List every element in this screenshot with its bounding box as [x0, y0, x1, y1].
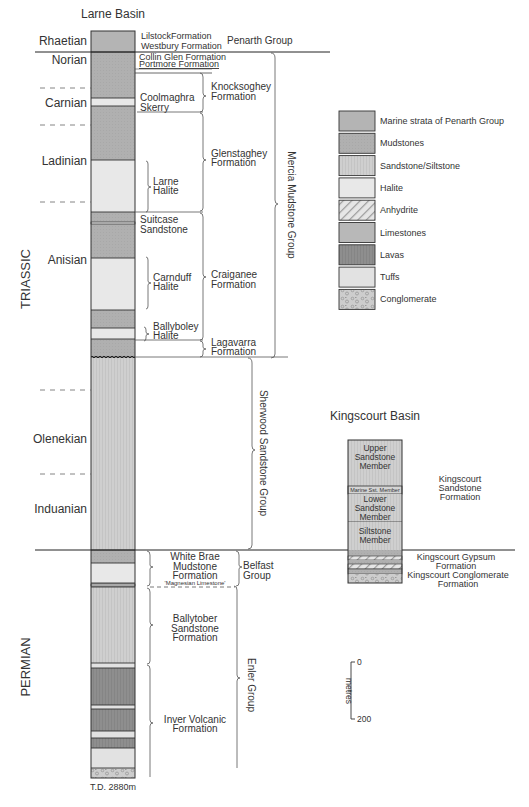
stage-boundaries	[40, 88, 91, 474]
craiganee-brace	[200, 213, 206, 340]
legend-swatch-mudstone	[339, 133, 375, 153]
ballytober-brace	[147, 588, 153, 664]
larne-layer-halite	[91, 160, 135, 212]
craiganee-label-2: Formation	[211, 279, 256, 290]
system-permian: PERMIAN	[18, 637, 33, 696]
larne-thin-band	[91, 584, 135, 586]
system-triassic: TRIASSIC	[18, 249, 33, 309]
knocksoghey-label-2: Formation	[211, 91, 256, 102]
portmore-formation: Portmore Formation	[139, 59, 219, 69]
legend-label-anhydrite: Anhydrite	[380, 205, 418, 215]
upper-sandstone-member-3: Member	[359, 461, 390, 471]
kingscourt-anhydrite-layer	[348, 556, 402, 560]
sherwood-sandstone-group-label: Sherwood Sandstone Group	[258, 390, 269, 517]
lagavarra-label-2: Formation	[211, 346, 256, 357]
legend-swatch-tuffs	[339, 267, 375, 287]
scale-min-label: 0	[357, 657, 362, 667]
stage-induanian: Induanian	[34, 502, 87, 516]
larne-thin-band	[91, 222, 135, 224]
larne-column	[91, 31, 135, 778]
larne-layer-mudstone	[91, 52, 135, 98]
larne-layer-mudstone	[91, 310, 135, 328]
larne-layer-lavas	[91, 709, 135, 731]
white-brae-brace	[147, 551, 153, 586]
glenstaghey-brace	[200, 113, 206, 211]
larne-layer-halite	[91, 563, 135, 583]
lower-sandstone-member-3: Member	[359, 512, 390, 522]
stage-olenekian: Olenekian	[33, 432, 87, 446]
kingscourt-conglomerate-layer	[348, 574, 402, 583]
inver-volcanic-label-2: Formation	[172, 723, 217, 734]
legend-label-lavas: Lavas	[380, 250, 405, 260]
larne-halite-label-2: Halite	[153, 185, 179, 196]
lilstock-formation: LilstockFormation	[141, 31, 212, 41]
sherwood-group-brace	[248, 358, 255, 549]
siltstone-member-2: Member	[359, 535, 390, 545]
glenstaghey-label-2: Formation	[211, 157, 256, 168]
stage-ladinian: Ladinian	[42, 154, 87, 168]
legend-label-conglomerate: Conglomerate	[380, 294, 437, 304]
legend-label-halite: Halite	[380, 183, 403, 193]
legend-swatch-lavas	[339, 245, 375, 265]
legend-swatch-halite	[339, 178, 375, 198]
stratigraphic-diagram: Larne Basin Rhaetian Norian Carnian Ladi…	[0, 0, 529, 807]
legend-swatch-anhydrite	[339, 200, 375, 220]
larne-layer-tuffs	[91, 748, 135, 768]
belfast-group-label-2: Group	[243, 570, 271, 581]
magnesian-limestone-label: 'Magnesian Limestone'	[165, 580, 226, 586]
legend: Marine strata of Penarth GroupMudstonesS…	[339, 111, 504, 309]
larne-layer-halite	[91, 328, 135, 339]
legend-label-limestone: Limestones	[380, 228, 427, 238]
kingscourt-anhydrite-layer	[348, 564, 402, 569]
larne-layer-penarth	[91, 31, 135, 52]
larne-layer-tuffs	[91, 705, 135, 709]
larne-basin-title: Larne Basin	[81, 7, 145, 21]
kingscourt-mudstone-layer	[348, 560, 402, 564]
inver-volcanic-brace	[147, 665, 153, 777]
marine-sst-member: Marine Sst. Member	[350, 487, 400, 493]
larne-layer-mudstone	[91, 339, 135, 357]
larne-layer-sandstone	[91, 357, 135, 550]
kingscourt-sandstone-formation-3: Formation	[440, 492, 481, 502]
kingscourt-conglomerate-formation-2: Formation	[438, 579, 479, 589]
suitcase-sandstone-label-2: Sandstone	[140, 224, 188, 235]
legend-swatch-conglomerate	[339, 289, 375, 309]
larne-layer-tuffs	[91, 663, 135, 668]
legend-label-sandstone: Sandstone/Siltstone	[380, 161, 460, 171]
carnduff-halite-label-2: Halite	[153, 281, 179, 292]
larne-layer-sandstone	[91, 587, 135, 663]
lagavarra-brace	[200, 341, 206, 357]
legend-swatch-sandstone	[339, 156, 375, 176]
penarth-group-label: Penarth Group	[227, 35, 293, 46]
legend-label-tuffs: Tuffs	[380, 272, 400, 282]
larne-layer-mudstone	[91, 212, 135, 258]
total-depth-label: T.D. 2880m	[90, 782, 136, 792]
scale-max-label: 200	[357, 714, 371, 724]
larne-layer-tuffs	[91, 731, 135, 738]
stage-carnian: Carnian	[45, 96, 87, 110]
legend-label-mudstone: Mudstones	[380, 138, 425, 148]
carnduff-halite-brace	[146, 257, 151, 309]
larne-layer-mudstone	[91, 550, 135, 563]
larne-layer-lavas	[91, 738, 135, 748]
legend-swatch-penarth	[339, 111, 375, 131]
belfast-group-brace	[236, 551, 242, 586]
larne-layer-halite	[91, 98, 135, 106]
stage-anisian: Anisian	[48, 253, 87, 267]
enler-group-label: Enler Group	[246, 658, 257, 712]
stage-rhaetian: Rhaetian	[39, 34, 87, 48]
coolmaghra-skerry-label-2: Skerry	[140, 102, 169, 113]
ballyboley-halite-label-2: Halite	[153, 330, 179, 341]
legend-swatch-limestone	[339, 223, 375, 243]
mercia-group-brace	[271, 53, 278, 358]
larne-layer-lavas	[91, 668, 135, 705]
larne-layer-halite	[91, 258, 135, 310]
knocksoghey-brace	[200, 73, 206, 112]
legend-label-penarth: Marine strata of Penarth Group	[380, 116, 504, 126]
enler-group-brace	[234, 586, 240, 768]
ballyboley-halite-brace	[144, 327, 149, 341]
ballytober-label-3: Formation	[172, 632, 217, 643]
larne-halite-brace	[146, 161, 151, 212]
larne-layer-conglomerate	[91, 768, 135, 778]
westbury-formation: Westbury Formation	[141, 41, 222, 51]
